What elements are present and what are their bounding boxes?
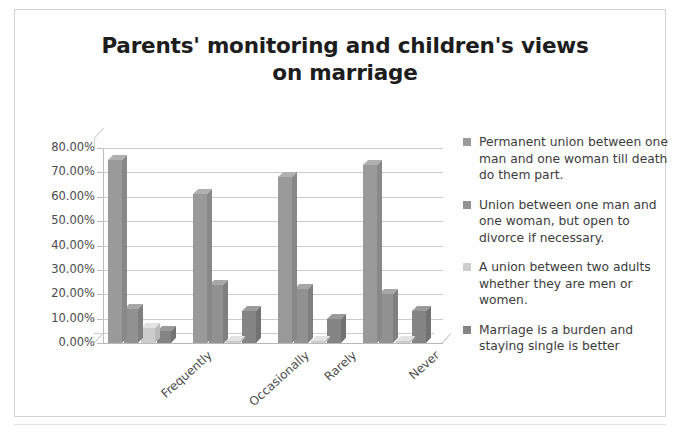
bar-side-face [292, 172, 297, 343]
legend-item-label: A union between two adults whether they … [479, 260, 651, 307]
bar [327, 319, 341, 343]
y-axis-tick-label: 0.00% [25, 337, 95, 348]
bar [193, 194, 207, 343]
chart-title-line-1: Parents' monitoring and children's views [101, 33, 588, 58]
bar-group [363, 148, 427, 343]
chart-title-line-2: on marriage [65, 59, 625, 86]
legend-swatch-icon [463, 201, 471, 209]
legend-item-label: Marriage is a burden and staying single … [479, 323, 633, 354]
y-axis-tick-label: 80.00% [25, 142, 95, 153]
bar-side-face [393, 289, 398, 343]
legend-item[interactable]: Marriage is a burden and staying single … [463, 322, 669, 355]
legend-swatch-icon [463, 326, 471, 334]
bar-group [193, 148, 257, 343]
bar-group [108, 148, 172, 343]
legend-item[interactable]: Permanent union between one man and one … [463, 134, 669, 184]
bar-group [278, 148, 342, 343]
y-axis-tick-label: 40.00% [25, 240, 95, 251]
bar [311, 341, 325, 343]
bar-side-face [256, 306, 261, 343]
plot-back-wall-top [94, 138, 435, 148]
floor-right-edge [442, 333, 452, 344]
legend-swatch-icon [463, 138, 471, 146]
bar [363, 165, 377, 343]
y-axis-tick-label: 30.00% [25, 264, 95, 275]
legend-item[interactable]: A union between two adults whether they … [463, 259, 669, 309]
legend-item[interactable]: Union between one man and one woman, but… [463, 197, 669, 247]
bar [226, 341, 240, 343]
bar-side-face [426, 306, 431, 343]
y-axis-tick-label: 20.00% [25, 288, 95, 299]
plot-area [103, 148, 443, 343]
legend-swatch-icon [463, 263, 471, 271]
chart-legend: Permanent union between one man and one … [463, 134, 669, 368]
bar-side-face [308, 284, 313, 343]
y-axis-tick-label: 50.00% [25, 215, 95, 226]
y-axis-tick-label: 60.00% [25, 191, 95, 202]
bar-side-face [207, 189, 212, 343]
bar-side-face [223, 279, 228, 343]
legend-item-label: Union between one man and one woman, but… [479, 198, 657, 245]
x-axis-tick-label: Rarely [321, 348, 359, 384]
page-title: Parents' monitoring and children's views… [65, 32, 625, 86]
floor-left-edge [94, 333, 104, 344]
x-axis-tick-label: Frequently [158, 348, 215, 401]
bar-side-face [377, 160, 382, 343]
bar [108, 160, 122, 343]
floor-front-edge [103, 343, 443, 344]
chart-frame: Parents' monitoring and children's views… [14, 9, 666, 417]
bar-front-face [363, 165, 377, 343]
bar-front-face [193, 194, 207, 343]
y-axis-tick-label: 10.00% [25, 313, 95, 324]
bar-side-face [138, 304, 143, 343]
bar [278, 177, 292, 343]
x-axis-tick-label: Never [406, 348, 442, 382]
legend-item-label: Permanent union between one man and one … [479, 135, 668, 182]
y-axis-tick-label: 70.00% [25, 166, 95, 177]
bar-side-face [122, 155, 127, 343]
bar-front-face [327, 319, 341, 343]
x-axis-tick-label: Occasionally [246, 348, 312, 409]
bar-front-face [278, 177, 292, 343]
bar-front-face [108, 160, 122, 343]
bar [396, 341, 410, 343]
